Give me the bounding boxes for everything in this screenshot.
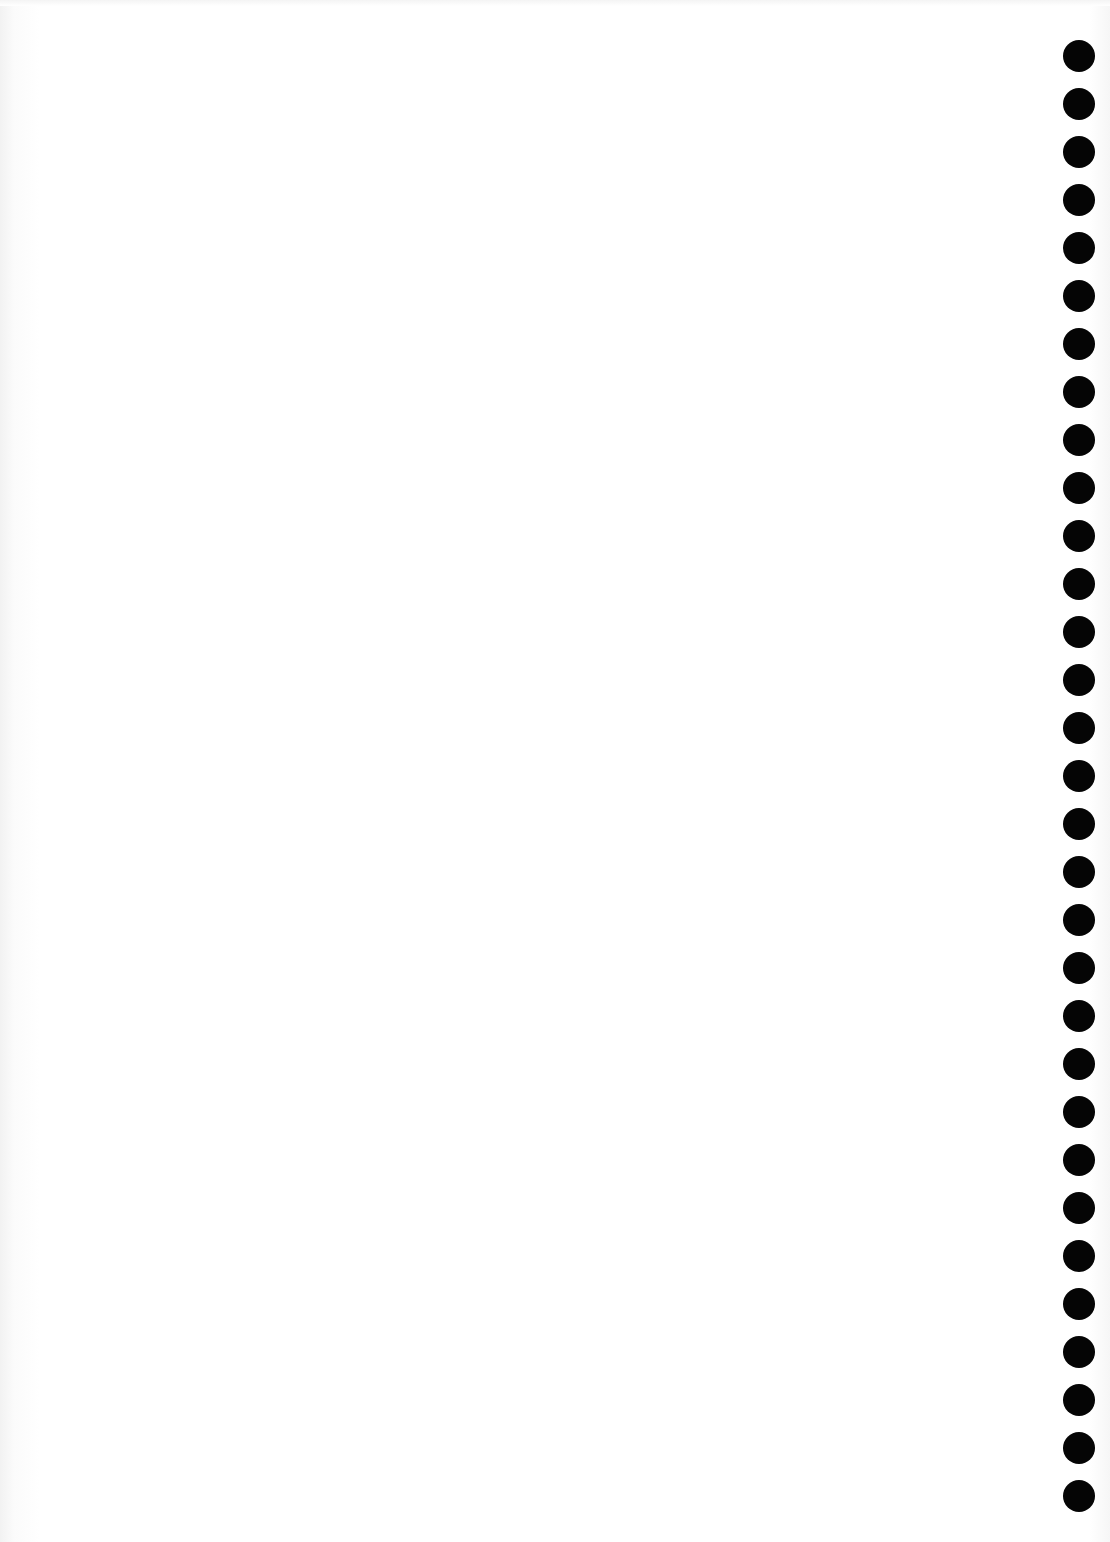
binding-hole-icon <box>1063 424 1095 456</box>
notebook-page <box>0 0 1110 1542</box>
binding-hole-icon <box>1063 1480 1095 1512</box>
page-top-shadow <box>0 0 1110 6</box>
binding-hole-icon <box>1063 1048 1095 1080</box>
binding-hole-icon <box>1063 376 1095 408</box>
binding-hole-icon <box>1063 184 1095 216</box>
binding-hole-icon <box>1063 1000 1095 1032</box>
binding-hole-icon <box>1063 1384 1095 1416</box>
binding-hole-icon <box>1063 808 1095 840</box>
binding-hole-icon <box>1063 1192 1095 1224</box>
binding-hole-icon <box>1063 1336 1095 1368</box>
binding-hole-icon <box>1063 136 1095 168</box>
binding-hole-icon <box>1063 1432 1095 1464</box>
binding-hole-icon <box>1063 952 1095 984</box>
binding-hole-icon <box>1063 1144 1095 1176</box>
binding-hole-icon <box>1063 520 1095 552</box>
binding-hole-icon <box>1063 1288 1095 1320</box>
binding-hole-icon <box>1063 712 1095 744</box>
binding-hole-icon <box>1063 280 1095 312</box>
binding-hole-icon <box>1063 616 1095 648</box>
binding-hole-icon <box>1063 328 1095 360</box>
binding-hole-icon <box>1063 88 1095 120</box>
binding-hole-icon <box>1063 856 1095 888</box>
binding-hole-icon <box>1063 1240 1095 1272</box>
binding-hole-icon <box>1063 664 1095 696</box>
binding-hole-icon <box>1063 760 1095 792</box>
binding-hole-icon <box>1063 904 1095 936</box>
binding-hole-icon <box>1063 1096 1095 1128</box>
binding-holes <box>1063 40 1097 1528</box>
binding-hole-icon <box>1063 232 1095 264</box>
binding-hole-icon <box>1063 472 1095 504</box>
binding-hole-icon <box>1063 568 1095 600</box>
binding-hole-icon <box>1063 40 1095 72</box>
